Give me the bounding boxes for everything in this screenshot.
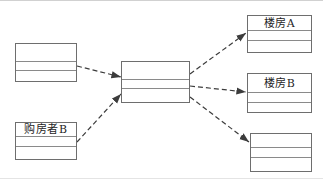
arrow-left-bottom-to-middle [77,94,121,142]
operations-compartment [16,70,76,82]
uml-dependency-diagram: 购房者B 楼房A 楼房B [0,0,323,181]
operations-compartment [248,102,311,112]
attributes-compartment [248,92,311,102]
class-box-left-top [15,43,77,82]
attributes-compartment [251,147,311,157]
operations-compartment [251,157,311,171]
arrow-middle-to-right-bottom [190,97,249,142]
attributes-compartment [16,61,76,70]
operations-compartment [122,88,189,102]
arrow-middle-to-right-top [190,33,246,74]
class-name-compartment [251,134,311,147]
class-name-compartment [16,44,76,61]
class-box-building-a: 楼房A [247,15,312,53]
arrow-left-top-to-middle [77,66,121,77]
operations-compartment [248,40,311,52]
class-name-compartment: 楼房B [248,74,311,92]
class-name-compartment: 购房者B [16,123,76,136]
class-name-compartment [122,62,189,79]
class-name-compartment: 楼房A [248,16,311,30]
class-box-middle [121,61,190,103]
attributes-compartment [248,30,311,40]
class-box-right-bottom [250,133,312,172]
arrow-middle-to-right-middle [190,86,246,92]
class-box-buyer-b: 购房者B [15,122,77,160]
attributes-compartment [122,79,189,88]
class-box-building-b: 楼房B [247,73,312,113]
operations-compartment [16,146,76,159]
attributes-compartment [16,136,76,146]
